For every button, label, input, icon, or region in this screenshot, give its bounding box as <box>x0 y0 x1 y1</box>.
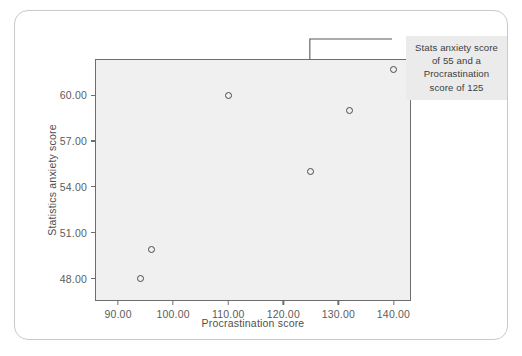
y-axis-title-text: Statistics anxiety score <box>46 124 58 236</box>
x-axis-tick-mark <box>117 300 118 305</box>
annotation-line: score of 125 <box>410 81 503 94</box>
y-axis-tick-mark <box>91 232 96 233</box>
data-points-layer <box>96 60 410 300</box>
scatter-point <box>307 168 314 175</box>
y-axis-tick-mark <box>91 140 96 141</box>
x-axis-tick-mark <box>283 300 284 305</box>
x-axis-tick-mark <box>338 300 339 305</box>
x-axis-tick-mark <box>173 300 174 305</box>
y-axis-tick: 51.00 <box>60 227 96 239</box>
y-axis-tick-mark <box>91 278 96 279</box>
x-axis-title: Procrastination score <box>95 317 411 329</box>
x-axis-title-text: Procrastination score <box>202 317 305 329</box>
x-axis-tick-mark <box>393 300 394 305</box>
scatter-point <box>346 107 353 114</box>
annotation-line: Stats anxiety score <box>410 41 503 54</box>
scatter-point <box>137 275 144 282</box>
y-axis-tick-mark <box>91 95 96 96</box>
y-axis-tick: 57.00 <box>60 135 96 147</box>
scatter-point <box>148 246 155 253</box>
y-axis-tick-label: 48.00 <box>60 273 87 285</box>
annotation-line: Procrastination <box>410 67 503 80</box>
y-axis-tick-mark <box>91 186 96 187</box>
scatter-point <box>225 92 232 99</box>
y-axis-tick: 48.00 <box>60 273 96 285</box>
annotation-callout: Stats anxiety scoreof 55 and aProcrastin… <box>406 36 507 100</box>
y-axis-tick: 60.00 <box>60 89 96 101</box>
annotation-line: of 55 and a <box>410 54 503 67</box>
y-axis-tick-label: 54.00 <box>60 181 87 193</box>
scatter-point <box>390 66 397 73</box>
y-axis-tick-label: 51.00 <box>60 227 87 239</box>
x-axis-tick-mark <box>228 300 229 305</box>
y-axis-tick-label: 60.00 <box>60 89 87 101</box>
y-axis-title: Statistics anxiety score <box>45 59 59 301</box>
y-axis-tick: 54.00 <box>60 181 96 193</box>
scatter-plot-area: 48.0051.0054.0057.0060.0090.00100.00110.… <box>95 59 411 301</box>
figure-card: 48.0051.0054.0057.0060.0090.00100.00110.… <box>14 10 508 340</box>
y-axis-tick-label: 57.00 <box>60 135 87 147</box>
